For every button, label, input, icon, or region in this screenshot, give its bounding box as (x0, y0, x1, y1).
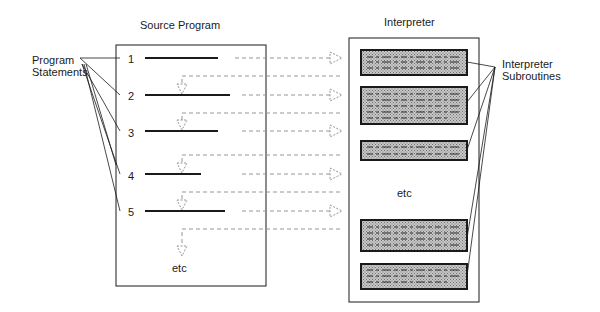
interpreter-etc-label: etc (397, 187, 412, 199)
source-etc-label: etc (172, 262, 187, 274)
source-program-box (116, 45, 266, 286)
statement-number-5: 5 (128, 206, 134, 218)
statement-number-2: 2 (128, 90, 134, 102)
arrowheads-down (177, 84, 187, 256)
source-program-title: Source Program (140, 19, 220, 31)
interpreter-subroutines-label-line1: Interpreter (502, 58, 553, 70)
subroutines (361, 50, 467, 289)
interpreter-title: Interpreter (384, 16, 435, 28)
subroutine-4 (361, 220, 467, 251)
statement-number-3: 3 (128, 127, 134, 139)
subroutine-3 (361, 141, 467, 160)
statement-number-1: 1 (128, 53, 134, 65)
interpreter-box (349, 38, 479, 302)
statement-bars (145, 58, 230, 211)
dispatch-arrows (182, 58, 340, 248)
subroutine-pointers (467, 62, 495, 276)
interpreter-diagram (0, 0, 600, 312)
interpreter-subroutines-label-line2: Subroutines (502, 70, 561, 82)
program-statements-label-line1: Program (32, 54, 74, 66)
program-statements-label-line2: Statements (32, 66, 88, 78)
statement-pointers (80, 58, 120, 211)
statement-number-4: 4 (128, 170, 134, 182)
